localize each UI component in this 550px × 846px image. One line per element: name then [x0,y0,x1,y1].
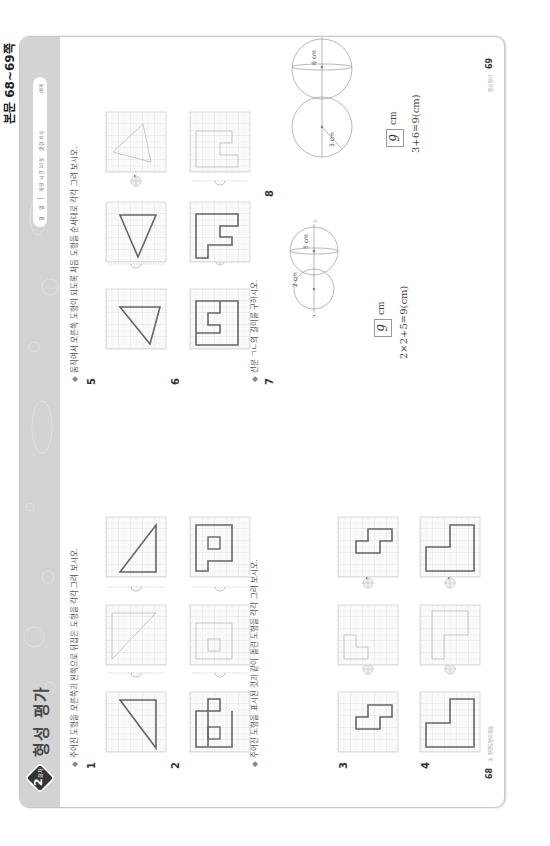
svg-text:2 cm: 2 cm [291,272,298,287]
workbook-spread: 2 회차 형성 평가 월 일 제한 시간 10분 맞힌 개수 /8개 ◆주어진 … [19,36,505,808]
problem3-figures [338,517,398,752]
problem8-diagram: 3 cm 6 cm [292,37,352,157]
svg-text:ㄱ: ㄱ [311,314,317,319]
problem5-figures [106,112,166,349]
problem6-figures [190,112,250,349]
svg-text:6 cm: 6 cm [310,50,317,65]
svg-text:3 cm: 3 cm [328,132,335,147]
svg-text:ㄴ: ㄴ [311,218,317,223]
figures: 2 cm 5 cm ㄱ ㄴ 3 cm 6 cm [20,37,504,807]
page-range-label: 본문 68~69쪽 [2,4,18,124]
problem7-diagram: 2 cm 5 cm ㄱ ㄴ [290,218,338,319]
svg-text:5 cm: 5 cm [302,234,309,249]
problem2-figures [190,517,250,752]
problem1-figures [106,517,166,752]
problem4-figures [420,517,480,752]
